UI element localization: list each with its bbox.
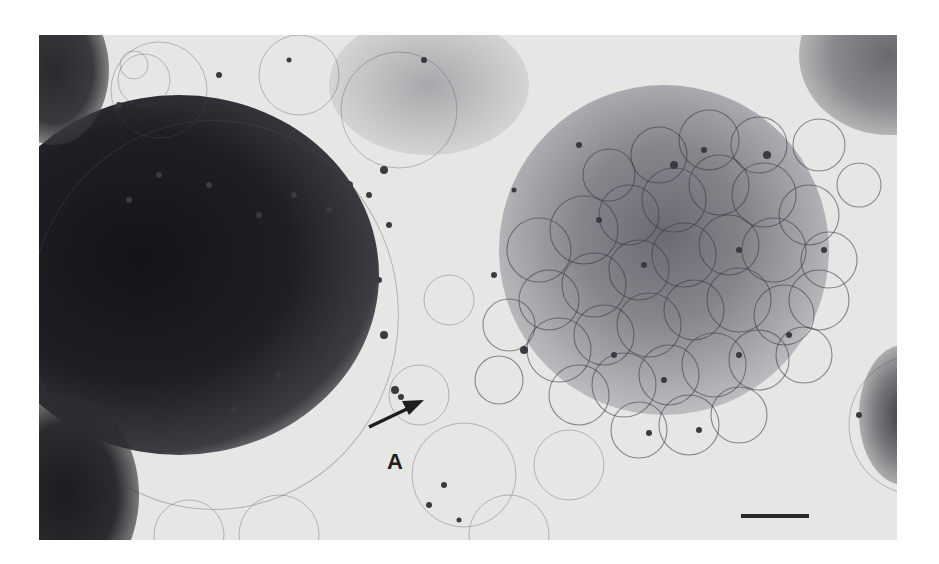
annotation-arrow: [369, 400, 424, 427]
scale-bar: [741, 514, 809, 518]
micrograph-image: A: [39, 35, 897, 540]
cell-cluster-outlines: [39, 35, 897, 540]
annotation-label-a: A: [387, 449, 403, 475]
